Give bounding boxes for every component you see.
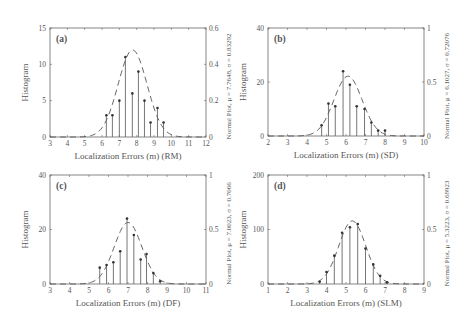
y-tick-label: 0 — [42, 280, 46, 289]
x-tick-label: 3 — [48, 139, 52, 148]
y2-tick-label: 1 — [427, 24, 431, 33]
y-tick-label: 100 — [253, 225, 265, 234]
y-tick-label: 20 — [39, 225, 47, 234]
normal-fit-curve — [268, 221, 424, 284]
x-tick-label: 10 — [168, 139, 176, 148]
x-tick-label: 7 — [364, 138, 368, 147]
stem-marker — [325, 271, 328, 274]
stem-marker — [119, 250, 122, 253]
y-tick-label: 0 — [260, 132, 264, 141]
stem-marker — [149, 121, 152, 124]
y2-axis-label: Normal Plot, μ = 7.7648, σ = 0.83292 — [225, 33, 233, 139]
axes-box — [268, 28, 424, 136]
x-tick-label: 3 — [305, 286, 309, 295]
stem-marker — [356, 223, 359, 226]
stem-marker — [386, 281, 389, 284]
x-axis-label: Localization Errors (m) (SD) — [294, 150, 399, 160]
x-tick-label: 9 — [422, 286, 426, 295]
y2-tick-label: 0.6 — [209, 24, 219, 33]
stem-marker — [112, 261, 115, 264]
y2-tick-label: 0 — [427, 132, 431, 141]
x-tick-label: 6 — [100, 139, 104, 148]
stem-marker — [124, 56, 127, 59]
y2-tick-label: 0.5 — [209, 225, 219, 234]
stem-marker — [126, 217, 129, 220]
x-tick-label: 7 — [126, 286, 130, 295]
x-tick-label: 3 — [48, 286, 52, 295]
x-tick-label: 3 — [286, 138, 290, 147]
x-tick-label: 10 — [183, 286, 191, 295]
stem-marker — [377, 129, 380, 132]
x-tick-label: 9 — [152, 139, 156, 148]
x-tick-label: 9 — [403, 138, 407, 147]
y2-axis-label: Normal Plot, μ = 7.0023, σ = 0.7066 — [225, 182, 233, 285]
normal-fit-curve — [50, 222, 206, 284]
stem-marker — [363, 108, 366, 111]
stem-marker — [118, 99, 121, 102]
x-tick-label: 5 — [344, 286, 348, 295]
y-tick-label: 200 — [253, 171, 265, 180]
y-tick-label: 0 — [42, 133, 46, 142]
x-tick-label: 4 — [325, 286, 329, 295]
x-axis-label: Localization Errors (m) (RM) — [74, 151, 181, 161]
stem-marker — [139, 258, 142, 261]
x-tick-label: 5 — [325, 138, 329, 147]
stem-marker — [156, 107, 159, 110]
y-tick-label: 10 — [39, 60, 47, 69]
x-tick-label: 8 — [403, 286, 407, 295]
stem-marker — [370, 121, 373, 124]
stem-marker — [334, 105, 337, 108]
panel-c: 345678910110204000.51(c)Localization Err… — [20, 171, 233, 309]
stem-marker — [145, 253, 148, 256]
axes-box — [50, 175, 206, 284]
stem-marker — [159, 280, 162, 283]
x-tick-label: 6 — [344, 138, 348, 147]
stem-marker — [105, 114, 108, 117]
x-tick-label: 7 — [383, 286, 387, 295]
panel-a: 345678910111205101500.20.40.6(a)Localiza… — [20, 24, 233, 162]
stem-marker — [355, 105, 358, 108]
x-tick-label: 9 — [165, 286, 169, 295]
x-tick-label: 2 — [266, 138, 270, 147]
x-tick-label: 5 — [87, 286, 91, 295]
x-tick-label: 5 — [83, 139, 87, 148]
x-tick-label: 2 — [286, 286, 290, 295]
y2-tick-label: 0 — [209, 133, 213, 142]
stem-marker — [320, 124, 323, 127]
stem-marker — [342, 70, 345, 73]
y2-tick-label: 1 — [427, 171, 431, 180]
x-tick-label: 8 — [146, 286, 150, 295]
y2-axis-label: Normal Plot, μ = 6.1027, σ = 0.72076 — [443, 33, 451, 139]
y-axis-label: Histogram — [238, 63, 248, 101]
x-tick-label: 7 — [117, 139, 121, 148]
panel-label: (a) — [56, 34, 67, 45]
x-axis-label: Localization Errors (m) (DF) — [76, 298, 181, 308]
stem-marker — [372, 263, 375, 266]
figure: 345678910111205101500.20.40.6(a)Localiza… — [0, 0, 474, 322]
stem-marker — [327, 102, 330, 105]
stem-marker — [143, 99, 146, 102]
stem-marker — [133, 234, 136, 237]
stem-marker — [152, 272, 155, 275]
stem-marker — [333, 254, 336, 257]
stem-marker — [111, 114, 114, 117]
x-axis-label: Localization Errors (m) (SLM) — [290, 298, 402, 308]
y-tick-label: 20 — [257, 78, 265, 87]
x-tick-label: 4 — [305, 138, 309, 147]
stem-marker — [318, 281, 321, 284]
y-axis-label: Histogram — [238, 211, 248, 249]
y-tick-label: 40 — [39, 171, 47, 180]
x-tick-label: 8 — [135, 139, 139, 148]
y-axis-label: Histogram — [20, 211, 30, 249]
x-tick-label: 6 — [364, 286, 368, 295]
y-tick-label: 40 — [257, 24, 265, 33]
y2-tick-label: 0.2 — [209, 96, 219, 105]
y2-tick-label: 1 — [209, 171, 213, 180]
panel-label: (d) — [274, 181, 286, 192]
x-tick-label: 8 — [383, 138, 387, 147]
stem-marker — [105, 264, 108, 267]
y2-tick-label: 0 — [427, 280, 431, 289]
y-tick-label: 0 — [260, 280, 264, 289]
stem-marker — [98, 266, 101, 269]
axes-box — [50, 28, 206, 137]
